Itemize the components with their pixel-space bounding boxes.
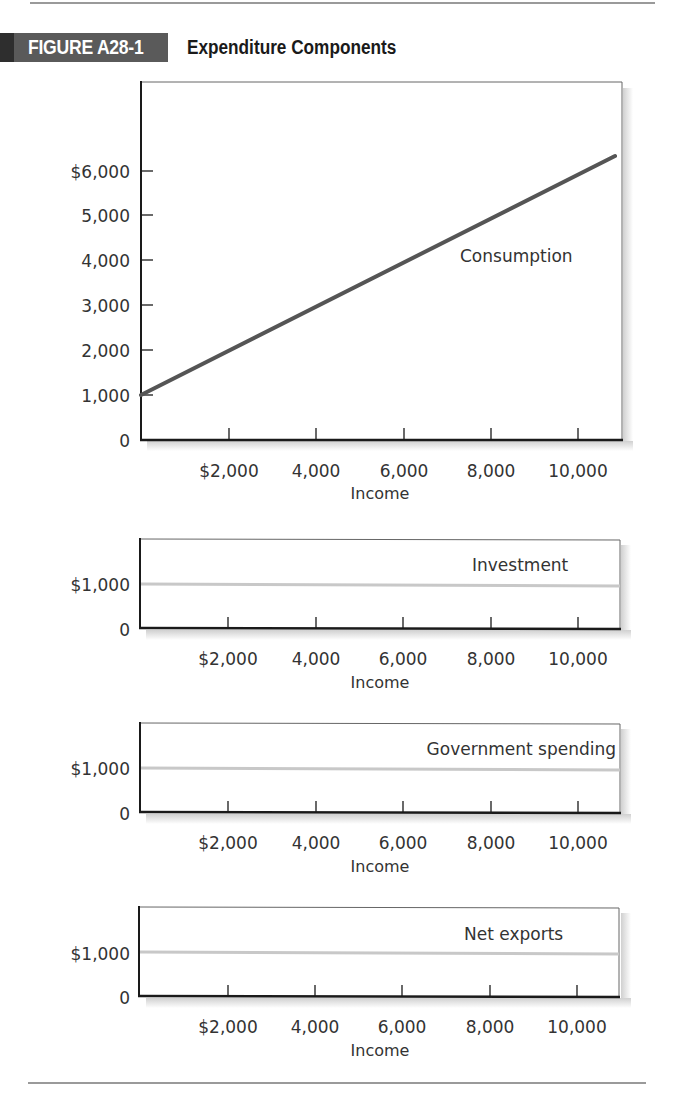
x-tick-label: $2,000 — [198, 1017, 257, 1037]
y-tick-label: $1,000 — [71, 944, 130, 964]
y-tick-label: 0 — [119, 988, 130, 1008]
government-spending-chart: $1,000 0 Government spending $2,000 4,00… — [71, 722, 631, 876]
investment-chart: $1,000 0 Investment $2,000 4,000 6,000 8… — [71, 538, 631, 692]
shadow-bottom — [146, 814, 631, 824]
x-tick-label: 10,000 — [548, 833, 607, 853]
x-tick-label: 10,000 — [548, 461, 607, 481]
y-tick-label: $6,000 — [71, 162, 130, 182]
x-tick-label: 8,000 — [467, 649, 516, 669]
charts-canvas: $6,000 5,000 4,000 3,000 2,000 1,000 0 C… — [0, 0, 675, 1095]
x-tick-label: 6,000 — [378, 1017, 427, 1037]
y-tick-label: 5,000 — [81, 206, 130, 226]
investment-line — [141, 584, 620, 586]
shadow-right — [621, 729, 631, 815]
x-tick-label: 8,000 — [466, 1017, 515, 1037]
x-tick-label: 10,000 — [547, 1017, 606, 1037]
x-axis-title: Income — [351, 673, 410, 692]
x-axis — [139, 812, 621, 813]
x-tick-label: 4,000 — [292, 649, 341, 669]
government-spending-line — [141, 768, 620, 770]
x-tick-label: $2,000 — [199, 461, 258, 481]
x-tick-label: 10,000 — [548, 649, 607, 669]
net-exports-line — [140, 952, 619, 954]
x-axis — [138, 996, 620, 997]
x-ticks — [228, 801, 578, 812]
x-tick-label: 6,000 — [379, 833, 428, 853]
frame-top — [140, 539, 620, 540]
x-tick-label: 8,000 — [467, 461, 516, 481]
y-ticks — [141, 171, 153, 395]
government-spending-label: Government spending — [427, 739, 616, 759]
y-tick-label: 0 — [119, 431, 130, 451]
x-ticks — [228, 985, 577, 996]
x-tick-label: 4,000 — [291, 1017, 340, 1037]
x-axis-title: Income — [351, 1041, 410, 1060]
investment-label: Investment — [472, 555, 569, 575]
y-tick-label: 2,000 — [81, 341, 130, 361]
y-tick-label: 3,000 — [81, 296, 130, 316]
y-tick-label: 0 — [119, 620, 130, 640]
x-tick-label: 8,000 — [467, 833, 516, 853]
x-axis-title: Income — [351, 857, 410, 876]
consumption-label: Consumption — [460, 246, 573, 266]
shadow-bottom — [147, 441, 633, 451]
shadow-right — [621, 545, 631, 631]
x-tick-label: 4,000 — [292, 461, 341, 481]
x-ticks — [228, 617, 578, 628]
net-exports-label: Net exports — [464, 924, 563, 944]
x-ticks — [229, 428, 578, 440]
x-axis — [139, 628, 621, 629]
frame-top — [140, 723, 620, 724]
shadow-bottom — [146, 630, 631, 640]
x-tick-label: 6,000 — [379, 649, 428, 669]
y-tick-label: 0 — [119, 804, 130, 824]
shadow-right — [623, 88, 633, 444]
y-tick-label: 4,000 — [81, 251, 130, 271]
y-tick-label: 1,000 — [81, 386, 130, 406]
x-tick-label: $2,000 — [198, 649, 257, 669]
shadow-bottom — [146, 998, 631, 1008]
net-exports-chart: $1,000 0 Net exports $2,000 4,000 6,000 … — [71, 906, 631, 1060]
y-tick-label: $1,000 — [71, 575, 130, 595]
consumption-line — [141, 156, 615, 395]
x-axis-title: Income — [351, 484, 410, 503]
shadow-right — [621, 913, 631, 999]
frame-top — [139, 907, 619, 908]
x-tick-label: 6,000 — [380, 461, 429, 481]
y-tick-label: $1,000 — [71, 759, 130, 779]
x-tick-label: $2,000 — [198, 833, 257, 853]
x-tick-label: 4,000 — [292, 833, 341, 853]
consumption-chart: $6,000 5,000 4,000 3,000 2,000 1,000 0 C… — [71, 81, 633, 503]
bottom-rule — [28, 1082, 646, 1084]
